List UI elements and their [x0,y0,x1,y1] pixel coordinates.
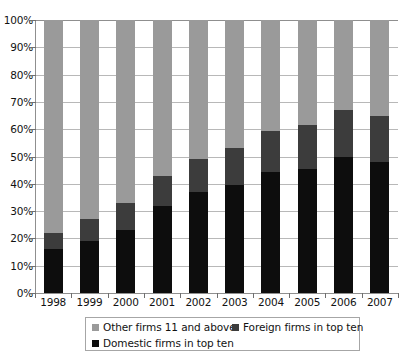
bar-segment-other [153,20,172,176]
plot-area [35,20,398,293]
bar-segment-domestic [370,162,389,293]
bar-segment-domestic [80,241,99,293]
bar-segment-foreign [334,110,353,156]
bar-segment-foreign [153,176,172,206]
bar-segment-foreign [189,159,208,192]
legend-label-domestic: Domestic firms in top ten [103,337,234,349]
x-axis-tick-label: 2006 [331,296,357,308]
legend-swatch-foreign-icon [232,324,239,331]
bar-segment-domestic [116,230,135,293]
y-axis-tick [29,129,36,130]
bar-segment-foreign [298,125,317,169]
bar-segment-other [225,20,244,148]
bar-segment-domestic [225,185,244,293]
x-axis-labels: 1998199920002001200220032004200520062007 [35,296,398,314]
bar-segment-domestic [189,192,208,293]
x-axis-tick-label: 2002 [185,296,211,308]
legend-swatch-domestic-icon [92,340,99,347]
bar-column[interactable] [225,20,244,293]
bar-column[interactable] [261,20,280,293]
bars-layer [35,20,398,293]
x-axis-tick-label: 2000 [113,296,139,308]
legend-label-other: Other firms 11 and above [103,321,236,333]
y-axis-tick [29,266,36,267]
x-axis-tick-label: 2007 [367,296,393,308]
bar-segment-foreign [116,203,135,230]
bar-column[interactable] [44,20,63,293]
bar-segment-other [298,20,317,125]
x-axis-tick-label: 1999 [76,296,102,308]
bar-column[interactable] [370,20,389,293]
x-axis-tick [398,293,399,298]
bar-segment-other [80,20,99,219]
stacked-bar-chart: 0%10%20%30%40%50%60%70%80%90%100% 199819… [0,0,401,358]
y-axis-tick [29,75,36,76]
bar-segment-foreign [370,116,389,162]
bar-segment-domestic [261,172,280,293]
bar-segment-domestic [298,169,317,293]
bar-column[interactable] [298,20,317,293]
x-axis-tick-label: 1998 [40,296,66,308]
bar-segment-other [189,20,208,159]
x-axis-tick-label: 2005 [294,296,320,308]
legend-item-other-firms[interactable]: Other firms 11 and above [92,321,236,333]
bar-segment-domestic [334,157,353,294]
y-axis-tick [29,157,36,158]
bar-column[interactable] [189,20,208,293]
legend-item-domestic-firms[interactable]: Domestic firms in top ten [92,337,234,349]
bar-segment-other [116,20,135,203]
bar-segment-foreign [80,219,99,241]
bar-segment-other [370,20,389,116]
bar-column[interactable] [153,20,172,293]
x-axis-tick-label: 2003 [222,296,248,308]
bar-segment-domestic [153,206,172,293]
x-axis-tick-label: 2004 [258,296,284,308]
bar-segment-other [44,20,63,233]
y-axis-tick [29,20,36,21]
legend-label-foreign: Foreign firms in top ten [243,321,363,333]
y-axis-tick [29,102,36,103]
bar-segment-other [261,20,280,131]
legend-row: Other firms 11 and above Foreign firms i… [86,319,359,335]
x-axis-tick-label: 2001 [149,296,175,308]
bar-segment-foreign [225,148,244,185]
bar-column[interactable] [116,20,135,293]
bar-column[interactable] [80,20,99,293]
y-axis-tick [29,184,36,185]
legend: Other firms 11 and above Foreign firms i… [85,317,360,351]
legend-swatch-other-icon [92,324,99,331]
bar-segment-foreign [44,233,63,249]
bar-segment-foreign [261,131,280,172]
legend-item-foreign-firms[interactable]: Foreign firms in top ten [232,321,363,333]
bar-segment-other [334,20,353,110]
y-axis-tick [29,47,36,48]
y-axis-tick [29,211,36,212]
y-axis-tick [29,238,36,239]
bar-column[interactable] [334,20,353,293]
bar-segment-domestic [44,249,63,293]
legend-row: Domestic firms in top ten [86,335,359,351]
